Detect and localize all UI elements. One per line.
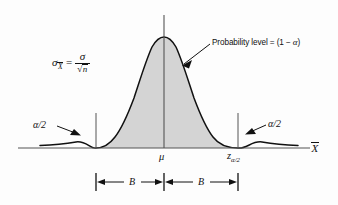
standard-error-formula: σX= σ √n: [52, 52, 90, 75]
distribution-plot: [0, 0, 338, 205]
probability-level-prefix: Probability level = (1 −: [212, 38, 293, 47]
probability-level-suffix: ): [297, 38, 300, 47]
sigma-over-sqrt-n: σ √n: [75, 51, 89, 74]
z-subscript: α/2: [231, 156, 240, 163]
z-critical-axis-label: zα/2: [227, 151, 240, 164]
xbar-symbol: X: [311, 142, 319, 155]
formula-numerator: σ: [75, 51, 89, 63]
x-axis-label: X: [311, 142, 319, 155]
alpha-left-label: α/2: [33, 120, 46, 130]
normal-distribution-figure: σX= σ √n Probability level = (1 − α) α/2…: [0, 0, 338, 205]
bound-right-label: B: [198, 177, 204, 187]
alpha-right-leader: [245, 125, 266, 135]
formula-denominator: √n: [75, 63, 89, 75]
bound-left-label: B: [129, 177, 135, 187]
shaded-confidence-region: [96, 37, 238, 148]
mu-axis-label: μ: [159, 152, 164, 163]
radicand-n: n: [82, 64, 88, 74]
probability-level-label: Probability level = (1 − α): [212, 38, 300, 47]
equals-sign: =: [63, 56, 75, 68]
alpha-left-leader: [57, 126, 81, 136]
probability-level-leader: [182, 44, 210, 69]
alpha-right-label: α/2: [268, 119, 281, 129]
bound-dimension-bars: [96, 173, 238, 191]
